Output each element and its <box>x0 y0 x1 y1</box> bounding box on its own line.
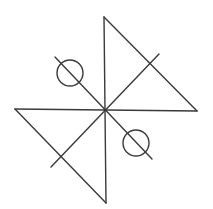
background <box>0 0 213 209</box>
pinwheel-diagram <box>0 0 213 209</box>
diagram-svg <box>0 0 213 209</box>
